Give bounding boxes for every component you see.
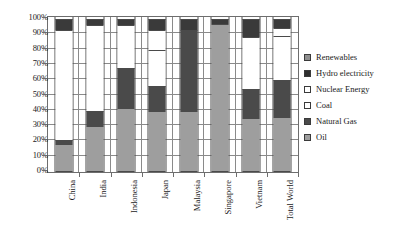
bar-segment-hydro-electricity [149,19,166,30]
bar-segment-hydro-electricity [180,19,197,30]
bar-segment-coal [55,30,72,140]
legend-label: Hydro electricity [316,69,374,78]
y-axis-tick-mark [42,170,47,171]
bar-slot [236,17,267,172]
x-axis-label-china: China [68,180,77,200]
x-axis-tick-mark [236,173,237,177]
bar-segment-oil [149,111,166,172]
y-axis-tick-mark [42,78,47,79]
y-axis-tick-mark [42,139,47,140]
legend-label: Nuclear Energy [316,85,369,94]
bar-segment-coal [274,36,291,80]
stacked-bar-malaysia[interactable] [179,17,198,172]
x-axis-label-singapore: Singapore [224,180,233,214]
legend-swatch-icon [304,54,311,61]
stacked-bar-vietnam[interactable] [242,17,261,172]
bar-segment-hydro-electricity [55,19,72,30]
bar-slot [173,17,204,172]
x-axis-label-vietnam: Vietnam [255,180,264,209]
x-axis-label-malaysia: Malaysia [193,180,202,211]
bar-segment-coal [86,25,103,111]
x-axis-tick-mark [173,173,174,177]
stacked-bar-india[interactable] [85,17,104,172]
y-axis-tick-mark [42,63,47,64]
y-axis-tick-mark [42,124,47,125]
x-axis-tick-mark [204,173,205,177]
legend-swatch-icon [304,134,311,141]
bar-slot [111,17,142,172]
legend-label: Coal [316,101,332,110]
x-axis-tick-mark [142,173,143,177]
stacked-bar-china[interactable] [54,17,73,172]
stacked-bar-singapore[interactable] [210,17,229,172]
legend-swatch-icon [304,86,311,93]
bar-segment-coal [243,37,260,89]
legend-swatch-icon [304,70,311,77]
y-axis-tick-mark [42,32,47,33]
x-axis-label-indonesia: Indonesia [130,180,139,213]
bar-slot [79,17,110,172]
bar-segment-hydro-electricity [274,19,291,28]
legend-item-natural-gas[interactable]: Natural Gas [304,113,398,129]
y-axis-tick-mark [42,109,47,110]
bar-segment-nuclear-energy [149,30,166,50]
stacked-bar-indonesia[interactable] [117,17,136,172]
legend-swatch-icon [304,118,311,125]
x-axis-tick-mark [267,173,268,177]
bar-slot [48,17,79,172]
y-axis-tick-mark [42,17,47,18]
bar-segment-natural-gas [86,111,103,126]
bar-segment-natural-gas [274,80,291,117]
bar-segment-natural-gas [149,86,166,110]
legend-item-nuclear-energy[interactable]: Nuclear Energy [304,81,398,97]
x-axis-label-japan: Japan [161,180,170,199]
x-axis-tick-mark [79,173,80,177]
legend-label: Renewables [316,53,357,62]
stacked-bar-chart: 100%90%80%70%60%50%40%30%20%10%0% ChinaI… [0,0,400,239]
legend-label: Oil [316,133,327,142]
legend-item-coal[interactable]: Coal [304,97,398,113]
bar-segment-nuclear-energy [274,28,291,36]
legend-item-hydro-electricity[interactable]: Hydro electricity [304,65,398,81]
chart-legend: RenewablesHydro electricityNuclear Energ… [304,49,398,145]
bar-segment-oil [180,111,197,172]
bar-segment-coal [149,50,166,87]
stacked-bar-japan[interactable] [148,17,167,172]
bar-segment-oil [274,117,291,172]
legend-item-renewables[interactable]: Renewables [304,49,398,65]
y-axis-tick-mark [42,94,47,95]
x-axis-tick-mark [111,173,112,177]
stacked-bar-total-world[interactable] [273,17,292,172]
bar-segment-oil [118,108,135,172]
bar-slot [142,17,173,172]
bar-segment-coal [118,25,135,68]
bar-series-container [48,17,298,172]
x-axis-label-india: India [99,180,108,197]
bar-segment-hydro-electricity [243,19,260,37]
x-axis-label-total-world: Total World [286,180,295,220]
bar-slot [204,17,235,172]
bar-segment-natural-gas [180,30,197,111]
y-axis-tick-mark [42,155,47,156]
bar-segment-oil [211,24,228,172]
x-axis-tick-mark [298,173,299,177]
bar-segment-natural-gas [243,89,260,118]
y-axis-tick-mark [42,48,47,49]
legend-swatch-icon [304,102,311,109]
bar-segment-oil [55,144,72,172]
legend-item-oil[interactable]: Oil [304,129,398,145]
bar-segment-oil [243,118,260,172]
legend-label: Natural Gas [316,117,357,126]
bar-segment-oil [86,126,103,172]
bar-slot [267,17,298,172]
bar-segment-natural-gas [118,68,135,108]
